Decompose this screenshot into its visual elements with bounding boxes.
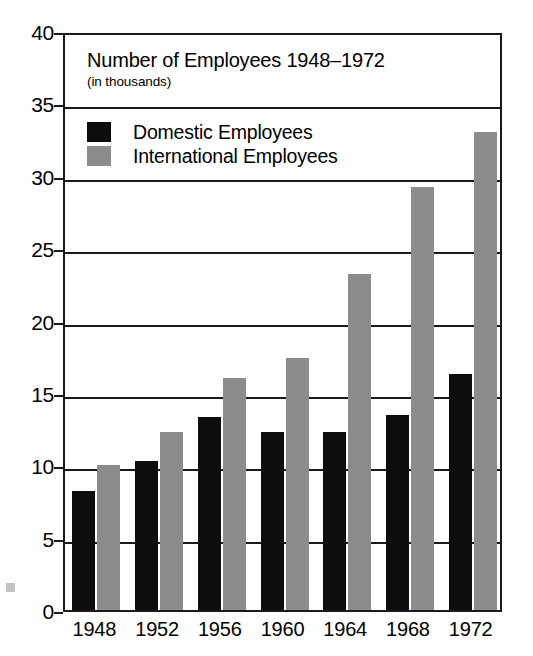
bar-domestic-1956: [198, 417, 221, 610]
bar-domestic-1972: [449, 374, 472, 610]
x-axis: 1948195219561960196419681972: [63, 616, 502, 650]
chart-title-block: Number of Employees 1948–1972 (in thousa…: [65, 35, 500, 105]
y-tick-mark-25: [54, 250, 63, 252]
y-tick-mark-30: [54, 178, 63, 180]
legend-item-label: International Employees: [133, 145, 338, 167]
legend: Domestic EmployeesInternational Employee…: [87, 120, 387, 168]
bar-domestic-1964: [323, 432, 346, 610]
y-tick-mark-15: [54, 395, 63, 397]
x-tick-label-1960: 1960: [261, 616, 305, 642]
bar-domestic-1968: [386, 415, 409, 610]
x-tick-label-1952: 1952: [135, 616, 179, 642]
legend-item-label: Domestic Employees: [133, 121, 313, 143]
legend-item-international: International Employees: [87, 144, 387, 168]
y-tick-label-30: 30: [0, 167, 54, 188]
bar-international-1956: [223, 378, 246, 610]
y-axis: 4035302520151050: [0, 33, 54, 612]
y-tick-mark-20: [54, 323, 63, 325]
y-tick-label-40: 40: [0, 22, 54, 43]
x-tick-label-1964: 1964: [323, 616, 367, 642]
y-tick-mark-5: [54, 540, 63, 542]
x-tick-label-1968: 1968: [386, 616, 430, 642]
y-tick-label-25: 25: [0, 239, 54, 260]
bar-international-1972: [474, 132, 497, 610]
bar-domestic-1948: [72, 491, 95, 610]
y-tick-label-10: 10: [0, 456, 54, 477]
bar-international-1960: [286, 358, 309, 610]
bar-international-1952: [160, 432, 183, 610]
bar-domestic-1952: [135, 461, 158, 610]
y-tick-label-20: 20: [0, 312, 54, 333]
y-tick-mark-0: [54, 612, 63, 614]
x-tick-label-1956: 1956: [198, 616, 242, 642]
y-tick-label-5: 5: [0, 529, 54, 550]
y-tick-mark-40: [54, 33, 63, 35]
x-tick-label-1972: 1972: [449, 616, 493, 642]
plot-area: Number of Employees 1948–1972 (in thousa…: [63, 33, 502, 612]
bar-chart-figure: 4035302520151050 Number of Employees 194…: [0, 0, 533, 656]
y-tick-label-35: 35: [0, 94, 54, 115]
bar-international-1964: [348, 274, 371, 610]
page-title: Number of Employees 1948–1972: [87, 48, 500, 72]
black-square-swatch: [87, 122, 111, 142]
y-tick-label-15: 15: [0, 384, 54, 405]
x-tick-label-1948: 1948: [72, 616, 116, 642]
bar-international-1968: [411, 187, 434, 610]
bar-international-1948: [97, 465, 120, 610]
y-tick-mark-35: [54, 105, 63, 107]
chart-subtitle: (in thousands): [87, 73, 500, 90]
legend-item-domestic: Domestic Employees: [87, 120, 387, 144]
y-tick-mark-10: [54, 467, 63, 469]
bar-domestic-1960: [261, 432, 284, 610]
gray-square-swatch: [87, 146, 111, 166]
y-tick-label-0: 0: [0, 601, 54, 622]
